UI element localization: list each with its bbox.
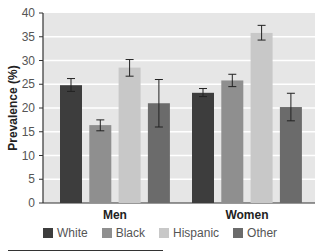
y-tick-label: 0: [28, 196, 35, 210]
legend-label: White: [57, 226, 88, 240]
legend-swatch: [102, 228, 112, 238]
bar-black-men: [89, 125, 111, 203]
y-axis-label: Prevalence (%): [6, 65, 20, 150]
legend-label: Other: [247, 226, 277, 240]
bar-chart: 0510152025303540Prevalence (%)MenWomen: [0, 0, 317, 252]
legend-swatch: [43, 228, 53, 238]
y-tick-label: 30: [22, 54, 36, 68]
legend-swatch: [233, 228, 243, 238]
y-tick-label: 25: [22, 77, 36, 91]
legend: WhiteBlackHispanicOther: [43, 226, 277, 240]
y-tick-label: 40: [22, 6, 36, 20]
y-tick-label: 15: [22, 125, 36, 139]
bar-hispanic-women: [251, 33, 273, 203]
legend-swatch: [159, 228, 169, 238]
bar-white-women: [192, 93, 214, 203]
y-tick-label: 35: [22, 30, 36, 44]
x-category-label: Men: [103, 208, 127, 222]
legend-item-white: White: [43, 226, 88, 240]
x-category-label: Women: [225, 208, 268, 222]
legend-label: Black: [116, 226, 145, 240]
legend-item-hispanic: Hispanic: [159, 226, 219, 240]
bar-black-women: [221, 80, 243, 203]
legend-item-other: Other: [233, 226, 277, 240]
bar-other-women: [280, 107, 302, 203]
divider: [8, 250, 163, 251]
bar-hispanic-men: [119, 68, 141, 203]
legend-item-black: Black: [102, 226, 145, 240]
y-tick-label: 20: [22, 101, 36, 115]
y-tick-label: 5: [28, 172, 35, 186]
bar-white-men: [60, 85, 82, 203]
legend-label: Hispanic: [173, 226, 219, 240]
y-tick-label: 10: [22, 149, 36, 163]
